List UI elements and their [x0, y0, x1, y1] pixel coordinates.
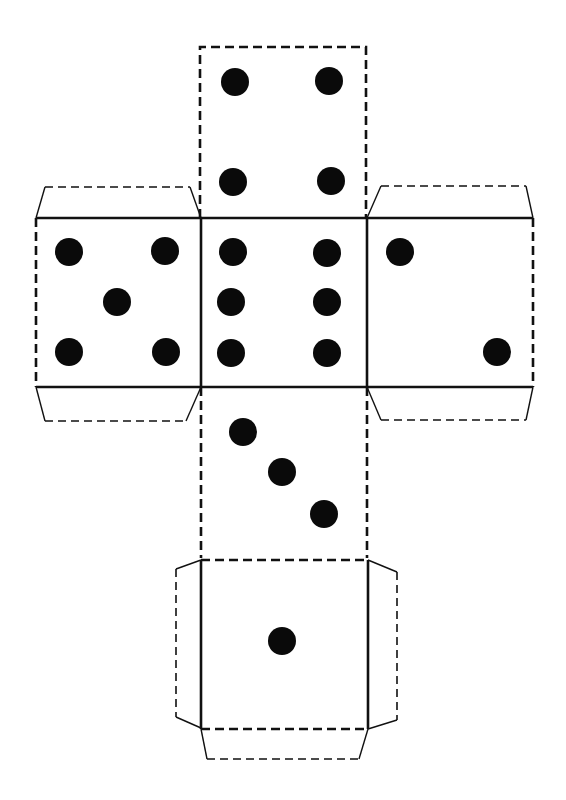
face-four-pips: [219, 67, 345, 196]
right-bottom-tab: [367, 387, 533, 420]
face-six-pips: [217, 238, 341, 367]
face-five-pips: [55, 237, 180, 366]
bottom-right-tab: [368, 560, 397, 729]
right-top-tab: [367, 186, 533, 218]
face-one-pip: [268, 627, 296, 655]
bottom-bottom-tab: [201, 729, 368, 759]
left-top-tab: [36, 187, 201, 218]
face-outlines: [36, 47, 533, 729]
face-two-pips: [386, 238, 511, 366]
face-three-pips: [229, 418, 338, 528]
left-bottom-tab: [36, 387, 201, 421]
dice-net-svg: [0, 0, 566, 800]
bottom-left-tab: [176, 560, 201, 728]
dice-net-diagram: [0, 0, 566, 800]
